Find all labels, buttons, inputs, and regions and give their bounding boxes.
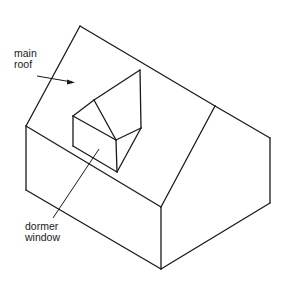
gable-end — [161, 106, 270, 269]
arrowhead-icon — [67, 80, 75, 85]
dormer-window-label: dormer window — [25, 221, 60, 243]
dormer-window-leader — [53, 149, 99, 218]
dormer-window-label-line2: window — [25, 232, 60, 243]
main-roof-leader — [37, 76, 75, 85]
main-roof-label-line2: roof — [14, 59, 37, 70]
dormer — [73, 70, 141, 172]
front-wall — [26, 126, 161, 269]
main-roof — [26, 26, 215, 207]
main-roof-label: main roof — [14, 48, 37, 70]
